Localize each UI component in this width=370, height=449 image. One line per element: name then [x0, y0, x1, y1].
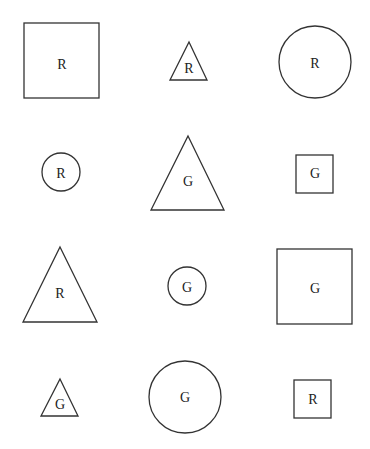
shape-r4c3-small-square: R — [294, 380, 331, 418]
shape-label: G — [310, 166, 320, 181]
shape-label: G — [182, 280, 192, 295]
shape-label: G — [310, 281, 320, 296]
shape-r4c1-small-triangle: G — [41, 379, 78, 416]
shape-r1c2-small-triangle: R — [170, 42, 207, 80]
shape-r2c1-small-circle: R — [42, 153, 80, 191]
shape-r1c3-large-circle: R — [279, 26, 351, 98]
shape-r3c2-small-circle: G — [168, 267, 206, 305]
shape-label: R — [308, 392, 318, 407]
shapes-grid: R R R R G G R G G G G R — [0, 0, 370, 449]
shape-r3c3-large-square: G — [277, 249, 352, 324]
shape-r1c1-large-square: R — [24, 23, 99, 98]
shape-label: R — [310, 56, 320, 71]
shape-label: R — [57, 57, 67, 72]
shape-r3c1-large-triangle: R — [23, 247, 97, 322]
shape-label: R — [184, 61, 194, 76]
shape-label: G — [180, 390, 190, 405]
shape-label: G — [55, 397, 65, 412]
triangle-icon — [23, 247, 97, 322]
shape-r4c2-large-circle: G — [149, 361, 221, 433]
shape-label: G — [183, 174, 193, 189]
shape-r2c3-small-square: G — [296, 155, 333, 193]
shape-label: R — [56, 166, 66, 181]
shape-label: R — [55, 286, 65, 301]
shape-r2c2-large-triangle: G — [151, 136, 224, 210]
